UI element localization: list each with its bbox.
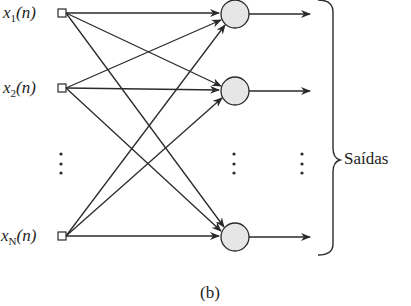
connections — [66, 13, 310, 237]
figure-caption: (b) — [200, 284, 220, 301]
neuron-1 — [221, 0, 249, 28]
input-node-n — [58, 232, 66, 240]
input-label-2: x2(n) — [3, 79, 36, 99]
neurons — [221, 0, 249, 251]
input-label-n: xN(n) — [1, 227, 36, 247]
input-node-1 — [58, 9, 66, 17]
single-layer-network-diagram: x1(n) x2(n) xN(n) Saídas (b) — [0, 0, 411, 306]
ellipsis-dots — [59, 152, 303, 174]
outputs-label: Saídas — [344, 150, 388, 167]
neuron-2 — [221, 77, 249, 105]
outputs-brace — [318, 0, 340, 255]
input-node-2 — [58, 84, 66, 92]
neuron-n — [221, 223, 249, 251]
input-label-1: x1(n) — [3, 4, 36, 24]
input-nodes — [58, 9, 66, 240]
